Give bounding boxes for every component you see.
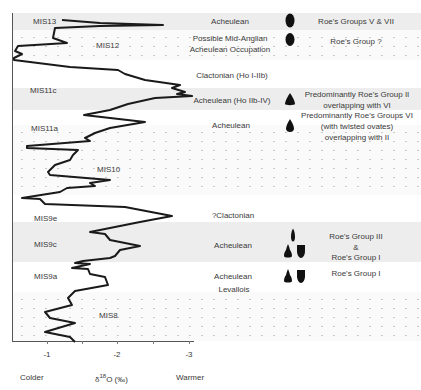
mis9a-label: MIS9a: [34, 272, 57, 281]
industry-clactonian: Clactonian (Ho I-IIb): [196, 71, 268, 80]
x-axis-title: δ18O (‰): [95, 373, 128, 384]
ovate-handaxe-icon: [285, 32, 295, 47]
cleaver-icon: [296, 269, 306, 284]
mis11c-label: MIS11c: [30, 86, 57, 95]
industry-mis9e: ?Clactonian: [212, 211, 254, 220]
mis11a-label: MIS11a: [31, 124, 58, 133]
roe-mis11a-line2: (with twisted ovates): [321, 122, 393, 131]
roe-mis11c-line1: Predominantly Roe's Group II: [305, 90, 410, 99]
x-tick-label: -2: [113, 350, 120, 359]
x-tick-label: -1: [43, 350, 50, 359]
industry-mis12-line2: Acheulean Occupation: [190, 45, 271, 54]
roe-mis12: Roe's Group ?: [330, 37, 381, 46]
ovate-pointed-handaxe-icon: [285, 118, 295, 133]
mis13-label: MIS13: [33, 17, 56, 26]
warmer-label: Warmer: [176, 373, 204, 382]
x-tick-label: -3: [185, 350, 192, 359]
pointed-handaxe-icon: [284, 92, 296, 106]
cleaver-icon: [296, 244, 306, 259]
industry-mis9c: Acheulean: [214, 241, 252, 250]
isotope-curve: [0, 0, 421, 390]
roe-mis9c-line1: Roe's Group III: [329, 232, 383, 241]
pointed-handaxe-icon: [283, 268, 293, 284]
roe-mis13: Roe's Groups V & VII: [318, 17, 394, 26]
industry-mis11a: Acheulean: [212, 121, 250, 130]
oxygen-unit: O (‰): [106, 375, 128, 384]
roe-mis9c-line2: &: [353, 243, 358, 252]
roe-mis11c-line2: overlapping with VI: [323, 101, 391, 110]
industry-mis12-line1: Possible Mid-Anglian: [193, 34, 268, 43]
mis12-label: MIS12: [96, 41, 119, 50]
industry-mis13: Acheulean: [211, 17, 249, 26]
industry-mis9a: Acheulean: [214, 272, 252, 281]
ovate-handaxe-icon: [285, 13, 295, 28]
industry-levallois: Levallois: [218, 285, 249, 294]
roe-mis11a-line1: Predominantly Roe's Groups VI: [301, 111, 413, 120]
mis10-label: MIS10: [97, 165, 120, 174]
roe-mis9c-line3: Roe's Group I: [331, 253, 380, 262]
ficron-handaxe-icon: [289, 228, 297, 242]
pointed-handaxe-icon: [283, 243, 293, 259]
mis9c-label: MIS9c: [34, 240, 57, 249]
mis9e-label: MIS9e: [34, 214, 57, 223]
industry-mis11c: Acheulean (Ho IIb-IV): [194, 96, 271, 105]
roe-mis11a-line3: overlapping with II: [325, 133, 389, 142]
mis8-label: MIS8: [99, 311, 118, 320]
roe-mis9a: Roe's Group I: [331, 269, 380, 278]
colder-label: Colder: [20, 373, 44, 382]
